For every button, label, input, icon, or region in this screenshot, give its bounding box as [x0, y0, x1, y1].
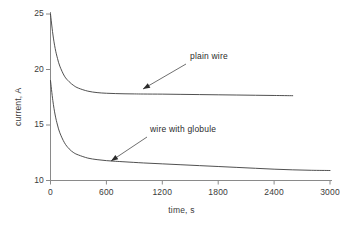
x-tick-label: 0 — [31, 187, 71, 197]
chart-canvas — [0, 0, 350, 232]
annotation-arrow-line — [143, 64, 186, 89]
x-tick-label: 1200 — [142, 187, 182, 197]
y-tick-label: 20 — [18, 64, 44, 74]
x-tick-marks — [51, 181, 331, 185]
annotation-label: wire with globule — [150, 124, 216, 134]
axis-spines — [50, 12, 332, 181]
y-axis-title: current, A — [13, 88, 23, 126]
annotation-arrows — [111, 64, 186, 161]
x-axis-title: time, s — [168, 205, 194, 215]
x-tick-label: 2400 — [254, 187, 294, 197]
x-tick-label: 600 — [86, 187, 126, 197]
y-tick-label: 10 — [18, 175, 44, 185]
data-line-plain-wire — [51, 14, 293, 96]
x-tick-label: 1800 — [198, 187, 238, 197]
chart-figure: 10152025 06001200180024003000 plain wire… — [0, 0, 350, 232]
annotation-label: plain wire — [190, 51, 228, 61]
y-tick-marks — [46, 14, 51, 181]
annotation-arrow-head — [143, 83, 150, 89]
x-tick-label: 3000 — [310, 187, 350, 197]
annotation-arrow-head — [111, 155, 118, 161]
y-tick-label: 25 — [18, 8, 44, 18]
data-series-group — [51, 14, 331, 171]
